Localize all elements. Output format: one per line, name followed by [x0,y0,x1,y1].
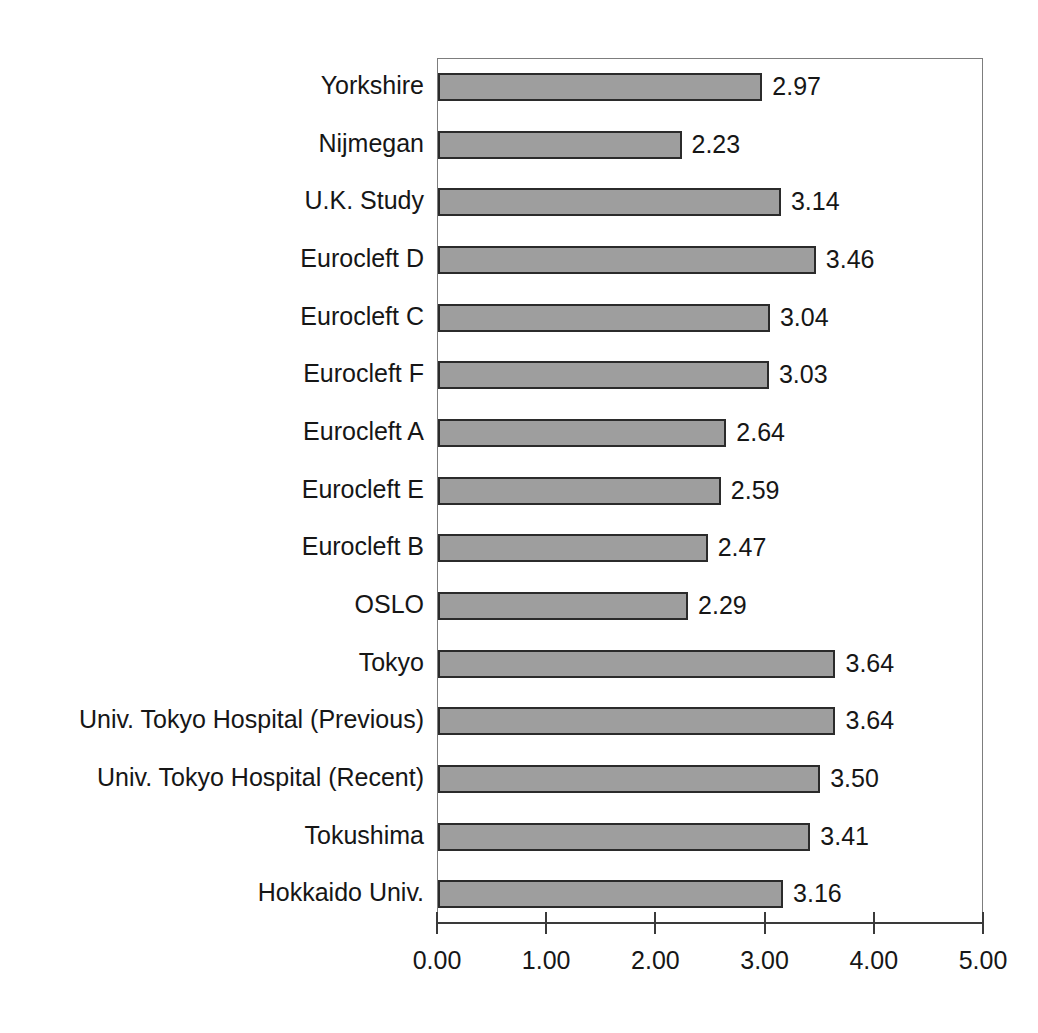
x-axis-tick [545,912,547,934]
x-axis-tick [873,912,875,934]
category-label: U.K. Study [305,185,425,215]
category-label: OSLO [355,589,424,619]
bar [438,650,835,678]
category-label: Eurocleft E [302,474,424,504]
bar-value-label: 2.29 [698,590,747,620]
bar-value-label: 3.41 [820,821,869,851]
bar-row: 3.03 [438,347,982,405]
category-label: Hokkaido Univ. [258,877,424,907]
bar-value-label: 3.16 [793,878,842,908]
bar-value-label: 3.14 [791,186,840,216]
x-axis-tick [654,912,656,934]
x-axis-tick [436,912,438,934]
x-axis-tick-label: 1.00 [522,945,571,975]
x-axis-tick-label: 0.00 [413,945,462,975]
category-label: Eurocleft D [300,243,424,273]
bar [438,592,688,620]
category-label: Eurocleft F [303,358,424,388]
category-label: Eurocleft A [303,416,424,446]
bar-value-label: 3.50 [830,763,879,793]
category-label: Eurocleft C [300,301,424,331]
bar-row: 3.64 [438,636,982,694]
bar-row: 2.47 [438,520,982,578]
bar-value-label: 2.97 [772,71,821,101]
bar-row: 2.29 [438,578,982,636]
bar-row: 3.41 [438,809,982,867]
x-axis-tick [982,912,984,934]
bar-value-label: 3.46 [826,244,875,274]
category-label: Univ. Tokyo Hospital (Recent) [97,762,424,792]
bar-row: 2.97 [438,59,982,117]
x-axis-tick [764,912,766,934]
bar-value-label: 2.64 [736,417,785,447]
bar [438,534,708,562]
bar-value-label: 2.23 [692,129,741,159]
bar-value-label: 3.64 [845,648,894,678]
bar-value-label: 3.64 [845,705,894,735]
bar-row: 3.50 [438,751,982,809]
bar [438,246,816,274]
category-label: Eurocleft B [302,531,424,561]
x-axis-tick-label: 3.00 [740,945,789,975]
category-label: Univ. Tokyo Hospital (Previous) [79,704,424,734]
bar-value-label: 3.03 [779,359,828,389]
bar-row: 2.64 [438,405,982,463]
bar [438,477,721,505]
category-label: Tokushima [305,820,425,850]
bar-row: 3.04 [438,290,982,348]
x-axis-tick-label: 5.00 [959,945,1008,975]
bar-value-label: 2.47 [718,532,767,562]
bar-row: 2.59 [438,463,982,521]
bar-value-label: 2.59 [731,475,780,505]
category-label: Tokyo [359,647,424,677]
plot-area: 2.972.233.143.463.043.032.642.592.472.29… [437,58,983,923]
bar [438,361,769,389]
bar [438,707,835,735]
bar [438,765,820,793]
category-label: Nijmegan [318,128,424,158]
x-axis-tick-label: 2.00 [631,945,680,975]
bar-row: 3.46 [438,232,982,290]
bar [438,131,682,159]
category-label: Yorkshire [321,70,424,100]
chart-title-remnant [430,0,630,5]
x-axis-tick-label: 4.00 [849,945,898,975]
bar [438,304,770,332]
bar-row: 3.14 [438,174,982,232]
bar-row: 3.16 [438,866,982,924]
bar-row: 3.64 [438,693,982,751]
bar [438,823,810,851]
bar-chart-figure: YorkshireNijmeganU.K. StudyEurocleft DEu… [0,0,1038,1033]
bar-value-label: 3.04 [780,302,829,332]
bar [438,880,783,908]
category-axis-labels: YorkshireNijmeganU.K. StudyEurocleft DEu… [0,58,424,923]
bar [438,73,762,101]
bar-row: 2.23 [438,117,982,175]
bar [438,419,726,447]
bar [438,188,781,216]
x-axis-line [437,922,984,924]
